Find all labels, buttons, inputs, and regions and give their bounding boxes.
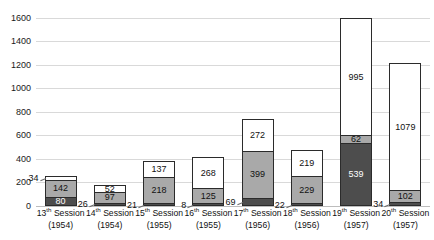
bar-column[interactable]: 13721821 — [143, 161, 175, 206]
bar-column[interactable]: 27239969 — [242, 119, 274, 206]
bar-segment-middle[interactable]: 102 — [389, 190, 421, 202]
y-axis-tick-label: 600 — [0, 131, 31, 140]
bar-segment-top[interactable]: 137 — [143, 161, 175, 177]
y-axis-tick-label: 0 — [0, 202, 31, 211]
ordinal-suffix: th — [391, 206, 396, 213]
y-axis-tick-label: 400 — [0, 154, 31, 163]
segment-value-label: 125 — [201, 192, 216, 201]
segment-value-label: 97 — [105, 193, 115, 202]
segment-value-label-outside: 69 — [226, 197, 236, 206]
segment-value-label: 229 — [299, 186, 314, 195]
segment-value-label: 218 — [152, 186, 167, 195]
bar-segment-top[interactable]: 219 — [291, 150, 323, 176]
bar-segment-top[interactable]: 1079 — [389, 63, 421, 190]
y-axis-tick-label: 1400 — [0, 37, 31, 46]
x-axis-category-label: 20th Session(1957) — [373, 208, 434, 231]
bar-column[interactable]: 21922922 — [291, 150, 323, 206]
y-axis-tick-label: 1200 — [0, 60, 31, 69]
category-year: (1957) — [373, 220, 434, 232]
segment-value-label: 102 — [398, 192, 413, 201]
plot-area: 3414280529726137218212681258272399692192… — [36, 6, 430, 206]
bar-column[interactable]: 2681258 — [192, 157, 224, 206]
bar-segment-middle[interactable]: 399 — [242, 151, 274, 198]
bar-segment-middle[interactable]: 142 — [45, 180, 77, 197]
bar-segment-top[interactable]: 995 — [340, 18, 372, 135]
segment-value-label: 219 — [299, 159, 314, 168]
bar-segment-bottom[interactable]: 80 — [45, 197, 77, 206]
segment-value-label: 539 — [349, 170, 364, 179]
stacked-bar-chart: 02004006008001000120014001600 3414280529… — [0, 0, 434, 240]
ordinal-suffix: th — [194, 206, 199, 213]
segment-value-label: 399 — [250, 170, 265, 179]
bar-segment-bottom[interactable]: 539 — [340, 143, 372, 206]
ordinal-suffix: th — [342, 206, 347, 213]
bar-segment-middle[interactable]: 218 — [143, 177, 175, 203]
x-axis-labels: 13th Session(1954)14th Session(1954)15th… — [36, 208, 430, 240]
bar-segment-middle[interactable]: 62 — [340, 135, 372, 142]
ordinal-suffix: th — [96, 206, 101, 213]
bar-segment-middle[interactable]: 125 — [192, 188, 224, 203]
y-axis-tick-label: 200 — [0, 178, 31, 187]
segment-value-label: 80 — [56, 197, 66, 206]
bar-segment-middle[interactable]: 229 — [291, 176, 323, 203]
bar-segment-top[interactable]: 272 — [242, 119, 274, 151]
ordinal-suffix: th — [243, 206, 248, 213]
bar-column[interactable]: 99562539 — [340, 18, 372, 206]
bar-segment-bottom[interactable]: 69 — [242, 198, 274, 206]
segment-value-label: 995 — [349, 73, 364, 82]
segment-value-label: 1079 — [395, 123, 415, 132]
ordinal-suffix: th — [293, 206, 298, 213]
segment-value-label: 142 — [53, 184, 68, 193]
bar-column[interactable]: 3414280 — [45, 176, 77, 206]
segment-value-label: 137 — [152, 165, 167, 174]
y-axis-tick-label: 800 — [0, 107, 31, 116]
bar-segment-top[interactable]: 268 — [192, 157, 224, 189]
ordinal-suffix: th — [46, 206, 51, 213]
bar-column[interactable]: 107910234 — [389, 63, 421, 206]
category-ordinal: 20th Session — [382, 208, 430, 218]
bar-segment-middle[interactable]: 97 — [94, 192, 126, 203]
segment-value-label: 272 — [250, 131, 265, 140]
ordinal-suffix: th — [145, 206, 150, 213]
segment-value-label: 268 — [201, 169, 216, 178]
leader-line — [237, 202, 243, 205]
bar-column[interactable]: 529726 — [94, 185, 126, 206]
segment-value-label-outside: 34 — [29, 174, 39, 183]
y-axis-tick-label: 1600 — [0, 13, 31, 22]
y-axis-tick-label: 1000 — [0, 84, 31, 93]
